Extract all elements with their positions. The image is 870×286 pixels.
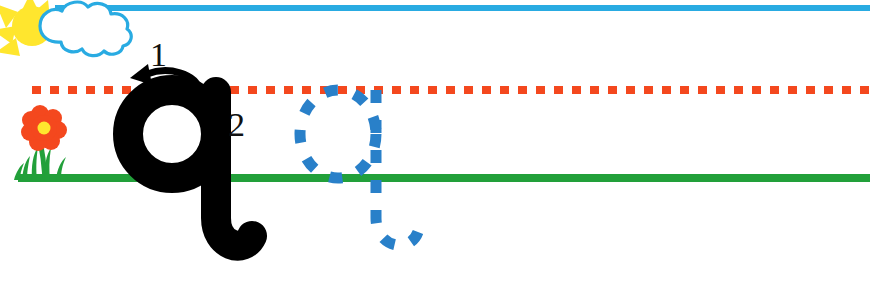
handwriting-worksheet: 1 2 [0, 0, 870, 286]
trace-letter-q[interactable] [0, 0, 870, 286]
